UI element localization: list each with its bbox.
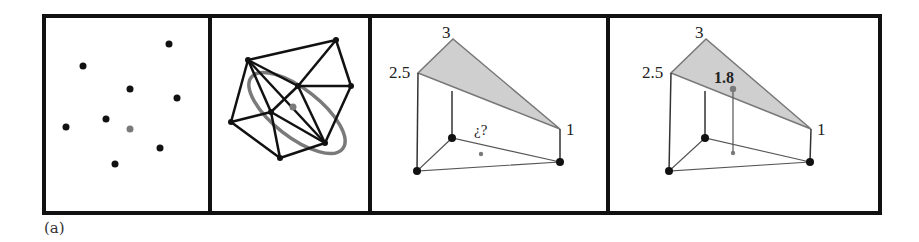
vertical-edge — [669, 73, 671, 171]
triangulation-vertex — [228, 119, 234, 125]
triangulation-vertex — [348, 83, 354, 89]
triangulation-vertex — [268, 109, 274, 115]
figure-canvas: 32.51¿? 32.511.8 — [0, 0, 919, 242]
base-triangle — [669, 138, 810, 171]
query-point — [127, 126, 134, 133]
triangulation-vertex — [295, 83, 301, 89]
triangulation-edge — [231, 122, 280, 158]
base-triangle — [417, 138, 560, 171]
data-point — [103, 116, 110, 123]
panel-interpolation-unknown: 32.51¿? — [389, 23, 575, 175]
interpolated-value-label: 1.8 — [714, 69, 734, 86]
interpolation-plane — [418, 39, 560, 129]
interpolation-plane — [671, 39, 811, 129]
value-label-left: 2.5 — [642, 63, 663, 82]
value-label-top: 3 — [442, 23, 451, 42]
base-vertex — [556, 158, 564, 166]
triangulation-edge — [248, 60, 271, 112]
triangulation-vertex — [322, 140, 328, 146]
value-label-left: 2.5 — [389, 63, 410, 82]
base-vertex — [448, 134, 456, 142]
data-point — [127, 86, 134, 93]
triangulation-edge — [248, 60, 325, 143]
triangulation-edge — [231, 60, 248, 122]
figure-caption: (a) — [44, 219, 65, 237]
value-label-right: 1 — [817, 120, 826, 139]
query-point — [290, 104, 297, 111]
interpolated-point — [730, 86, 736, 92]
triangulation-edge — [336, 40, 351, 86]
data-point — [112, 161, 119, 168]
triangulation-vertex — [333, 37, 339, 43]
value-label-top: 3 — [695, 23, 704, 42]
triangulation-edge — [325, 86, 351, 143]
data-point — [157, 145, 164, 152]
base-vertex — [806, 158, 814, 166]
query-point — [731, 151, 735, 155]
panel-delaunay-triangulation — [228, 37, 357, 168]
base-vertex — [413, 167, 421, 175]
vertical-edge — [417, 73, 418, 171]
data-point — [63, 124, 70, 131]
triangulation-vertex — [277, 155, 283, 161]
value-label-right: 1 — [566, 120, 575, 139]
panel-scattered-points — [63, 41, 181, 168]
triangulation-vertex — [245, 57, 251, 63]
data-point — [174, 95, 181, 102]
vertical-edge — [810, 129, 811, 162]
unknown-value-label: ¿? — [474, 122, 488, 138]
panel-interpolation-result: 32.511.8 — [642, 23, 826, 175]
base-vertex — [665, 167, 673, 175]
data-point — [166, 41, 173, 48]
data-point — [80, 63, 87, 70]
base-vertex — [701, 134, 709, 142]
query-point — [479, 152, 483, 156]
